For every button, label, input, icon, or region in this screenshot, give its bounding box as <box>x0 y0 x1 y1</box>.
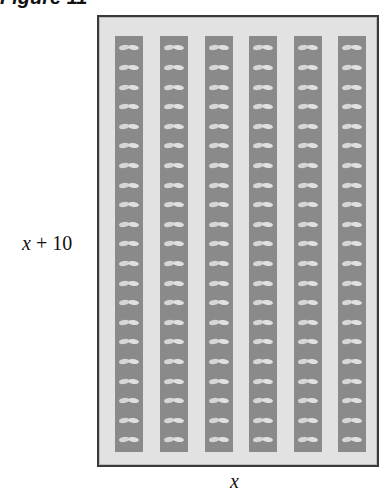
plant-icon <box>342 240 362 247</box>
plant-icon <box>209 417 229 424</box>
plant-icon <box>164 182 184 189</box>
plant-icon <box>342 436 362 443</box>
plant-icon <box>298 84 318 91</box>
plant-icon <box>164 103 184 110</box>
plant-icon <box>298 358 318 365</box>
plant-icon <box>164 123 184 130</box>
plant-icon <box>209 123 229 130</box>
plant-icon <box>209 319 229 326</box>
plant-icon <box>342 299 362 306</box>
plant-icon <box>164 260 184 267</box>
plant-icon <box>119 221 139 228</box>
plant-icon <box>164 84 184 91</box>
plant-icon <box>209 201 229 208</box>
plant-icon <box>119 103 139 110</box>
plant-icon <box>209 299 229 306</box>
plant-icon <box>342 417 362 424</box>
plant-icon <box>253 123 273 130</box>
plant-icon <box>298 44 318 51</box>
plant-icon <box>253 436 273 443</box>
plant-icon <box>342 123 362 130</box>
plant-icon <box>298 162 318 169</box>
plant-icon <box>253 64 273 71</box>
plant-icon <box>119 397 139 404</box>
plant-icon <box>298 201 318 208</box>
plant-icon <box>253 397 273 404</box>
plant-icon <box>253 299 273 306</box>
plant-icon <box>209 397 229 404</box>
plant-icon <box>298 338 318 345</box>
height-label-offset: + 10 <box>31 232 72 254</box>
plant-icon <box>298 436 318 443</box>
plant-icon <box>164 280 184 287</box>
plant-row-strip <box>249 36 277 452</box>
plant-icon <box>119 201 139 208</box>
plant-icon <box>209 260 229 267</box>
plant-icon <box>298 417 318 424</box>
plant-icon <box>342 338 362 345</box>
plant-icon <box>298 319 318 326</box>
plant-icon <box>164 299 184 306</box>
plant-icon <box>253 280 273 287</box>
plant-icon <box>209 358 229 365</box>
plant-icon <box>298 378 318 385</box>
plant-icon <box>253 260 273 267</box>
plant-icon <box>209 280 229 287</box>
plant-icon <box>298 397 318 404</box>
plant-icon <box>209 142 229 149</box>
plant-icon <box>253 378 273 385</box>
plant-icon <box>164 319 184 326</box>
plant-icon <box>253 142 273 149</box>
plant-icon <box>119 142 139 149</box>
plant-icon <box>342 103 362 110</box>
plant-icon <box>209 64 229 71</box>
plant-icon <box>119 64 139 71</box>
plant-icon <box>119 44 139 51</box>
plant-icon <box>119 358 139 365</box>
plant-row-strip <box>338 36 366 452</box>
plant-icon <box>298 103 318 110</box>
plant-icon <box>119 280 139 287</box>
plant-icon <box>209 338 229 345</box>
plant-row-strip <box>205 36 233 452</box>
plant-icon <box>164 417 184 424</box>
plant-icon <box>342 221 362 228</box>
plant-row-strip <box>294 36 322 452</box>
plant-icon <box>164 221 184 228</box>
plant-icon <box>164 338 184 345</box>
height-label: x + 10 <box>22 232 72 255</box>
plant-icon <box>253 103 273 110</box>
plant-icon <box>119 260 139 267</box>
plant-icon <box>119 162 139 169</box>
plant-icon <box>164 162 184 169</box>
plant-icon <box>342 182 362 189</box>
plant-icon <box>209 162 229 169</box>
plant-icon <box>342 64 362 71</box>
plant-icon <box>209 378 229 385</box>
plant-row-strip <box>160 36 188 452</box>
plant-icon <box>164 240 184 247</box>
plant-icon <box>209 44 229 51</box>
plant-icon <box>253 182 273 189</box>
plant-icon <box>298 280 318 287</box>
plant-icon <box>342 280 362 287</box>
figure-title: Figure 11 <box>0 0 87 9</box>
plant-icon <box>253 240 273 247</box>
plant-icon <box>119 319 139 326</box>
plant-icon <box>119 338 139 345</box>
plant-icon <box>119 436 139 443</box>
plant-icon <box>119 240 139 247</box>
plant-icon <box>298 142 318 149</box>
plant-icon <box>209 182 229 189</box>
plant-icon <box>209 221 229 228</box>
height-label-variable: x <box>22 232 31 254</box>
plant-icon <box>119 182 139 189</box>
plant-icon <box>298 221 318 228</box>
plant-icon <box>253 358 273 365</box>
plant-icon <box>342 142 362 149</box>
plant-icon <box>164 142 184 149</box>
plant-icon <box>209 84 229 91</box>
plant-row-strip <box>115 36 143 452</box>
plant-icon <box>164 378 184 385</box>
plant-icon <box>119 299 139 306</box>
